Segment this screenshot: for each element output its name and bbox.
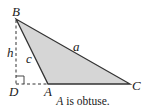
vertex-label-b: B — [12, 4, 20, 19]
side-label-c: c — [26, 51, 32, 66]
right-angle-marker — [16, 76, 24, 84]
figure-caption: A is obtuse. — [0, 95, 144, 107]
vertex-label-c: C — [132, 78, 141, 93]
obtuse-triangle-diagram: B h c a D A C — [0, 0, 144, 110]
caption-text: is obtuse. — [63, 95, 109, 107]
height-label-h: h — [7, 45, 14, 60]
side-label-a: a — [73, 39, 80, 54]
